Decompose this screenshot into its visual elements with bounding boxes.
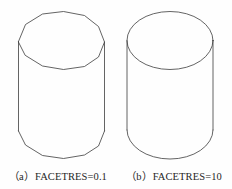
caption-a-text: FACETRES=0.1 <box>34 171 107 182</box>
prism-bottom-edge <box>19 131 105 159</box>
caption-a: （a）FACETRES=0.1 <box>0 170 116 184</box>
caption-a-tag: （a） <box>9 171 34 182</box>
smooth-cylinder-shape <box>127 12 213 160</box>
cylinder-bottom-edge <box>127 130 213 159</box>
caption-b-text: FACETRES=10 <box>152 171 222 182</box>
cylinder-comparison-drawing <box>0 0 232 189</box>
caption-row: （a）FACETRES=0.1 （b）FACETRES=10 <box>0 164 232 189</box>
faceted-prism-shape <box>19 12 105 159</box>
prism-top-face <box>19 12 105 70</box>
cylinder-top-face <box>127 12 213 70</box>
caption-b: （b）FACETRES=10 <box>116 170 232 184</box>
figure-root: （a）FACETRES=0.1 （b）FACETRES=10 <box>0 0 232 189</box>
caption-b-tag: （b） <box>126 171 152 182</box>
